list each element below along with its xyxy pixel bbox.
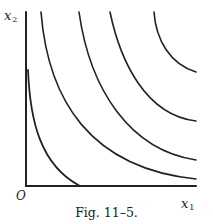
figure: x2 x1 O Fig. 11–5. — [0, 0, 213, 224]
curve-3 — [79, 12, 196, 160]
curve-1 — [28, 70, 80, 186]
plot-area — [0, 0, 213, 224]
figure-caption: Fig. 11–5. — [0, 205, 213, 220]
curve-4 — [154, 12, 196, 72]
origin-label: O — [16, 189, 26, 203]
y-axis-label: x2 — [4, 8, 17, 24]
